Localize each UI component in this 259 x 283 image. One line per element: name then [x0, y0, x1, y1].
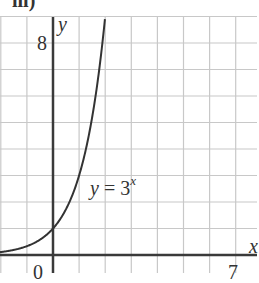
curve-label-exponent: x	[130, 173, 136, 188]
curve-label-y: y	[90, 177, 99, 199]
part-label: iii)	[12, 0, 35, 10]
curve-equation-label: y = 3x	[90, 174, 136, 198]
y-tick-label-8: 8	[37, 33, 47, 53]
curve-label-eq: = 3	[99, 177, 130, 199]
axes	[0, 17, 257, 273]
x-tick-label-7: 7	[228, 262, 238, 282]
y-axis-label: y	[58, 14, 67, 34]
grid-lines	[0, 17, 257, 274]
origin-label: 0	[33, 262, 43, 282]
x-axis-label: x	[249, 236, 258, 256]
